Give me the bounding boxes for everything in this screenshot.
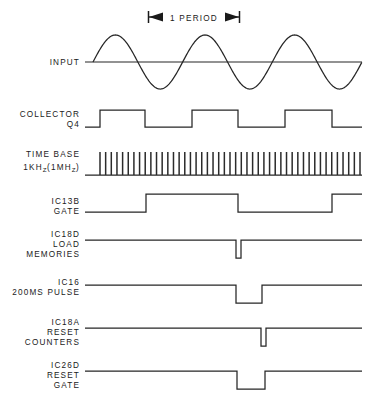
ic18d-memories-label: MEMORIES [26,250,80,259]
freq-prefix: 1KH [23,163,42,172]
ic18a-reset-counters-waveform [85,328,362,346]
row-ic13b-gate: IC13B GATE [51,194,362,216]
ic18d-load-label: LOAD [53,240,80,249]
timing-diagram: 1 PERIOD INPUT COLLECTOR Q4 TIME BASE 1K… [0,0,375,399]
timing-diagram-canvas: 1 PERIOD INPUT COLLECTOR Q4 TIME BASE 1K… [0,0,375,399]
ic13b-label: IC13B [51,197,80,206]
time-base-frequency-label: 1KHZ(1MHZ) [23,163,80,173]
period-right-arrowhead [225,12,239,21]
freq-suffix: ) [76,163,80,172]
collector-label: COLLECTOR [20,110,80,119]
freq-mid: (1MH [47,163,72,172]
ic18a-reset-label: RESET [47,328,80,337]
q4-label: Q4 [67,120,80,129]
ic13b-gate-waveform [85,194,362,212]
ic18a-label: IC18A [51,318,80,327]
row-input: INPUT [50,35,362,89]
ic18d-label: IC18D [51,230,80,239]
ic13b-gate-label: GATE [54,207,80,216]
collector-q4-waveform [85,110,362,127]
ic16-pulse-label: 200MS PULSE [12,288,80,297]
ic26d-gate-label: GATE [54,381,80,390]
ic18d-load-memories-waveform [85,240,362,258]
ic26d-reset-label: RESET [47,371,80,380]
row-collector-q4: COLLECTOR Q4 [20,110,362,129]
period-annotation: 1 PERIOD [149,11,240,23]
row-ic26d-reset-gate: IC26D RESET GATE [47,361,362,390]
ic16-200ms-pulse-waveform [85,285,362,303]
row-ic16-200ms-pulse: IC16 200MS PULSE [12,278,362,303]
ic26d-label: IC26D [51,361,80,370]
row-ic18a-reset-counters: IC18A RESET COUNTERS [25,318,362,347]
input-label: INPUT [50,58,80,67]
period-label: 1 PERIOD [170,14,218,23]
time-base-label: TIME BASE [26,150,80,159]
ic26d-reset-gate-waveform [85,371,362,389]
time-base-pulse-train [100,152,360,175]
ic16-label: IC16 [58,278,80,287]
row-ic18d-load-memories: IC18D LOAD MEMORIES [26,230,362,259]
row-time-base: TIME BASE 1KHZ(1MHZ) [23,150,362,175]
ic18a-counters-label: COUNTERS [25,338,80,347]
period-left-arrowhead [149,12,163,21]
